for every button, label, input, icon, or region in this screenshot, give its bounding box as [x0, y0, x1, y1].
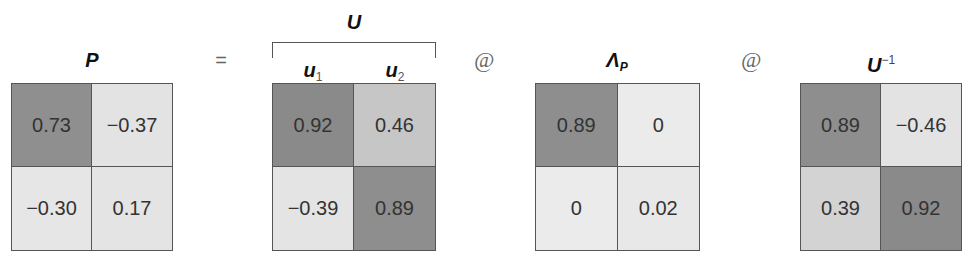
matrix-p-cell: −0.30: [12, 167, 92, 250]
matrix-u-cell: 0.89: [354, 167, 435, 250]
matrix-u-inverse-title: U−1: [856, 50, 906, 75]
matrix-p-cell: 0.73: [12, 84, 92, 167]
matrix-u-inverse-cell: 0.39: [801, 167, 881, 250]
matrix-p: 0.73 −0.37 −0.30 0.17: [11, 83, 173, 251]
matrix-u-bracket: [272, 42, 436, 58]
matrix-u: 0.92 0.46 −0.39 0.89: [272, 83, 436, 251]
matrix-p-title-text: P: [85, 49, 98, 71]
matrix-u-cell: 0.92: [273, 84, 354, 167]
column-label-base: u: [304, 59, 316, 81]
matrix-lambda-cell: 0.89: [536, 84, 618, 167]
column-label-index: 2: [398, 70, 405, 84]
matrix-u-title: U: [334, 12, 374, 32]
matrix-p-cell: 0.17: [92, 167, 172, 250]
matrix-u-inverse-cell: 0.92: [881, 167, 961, 250]
matmul-operator-1: @: [472, 50, 496, 70]
matrix-u-inverse-title-text: U: [867, 54, 881, 76]
matrix-p-title: P: [72, 50, 112, 70]
matrix-lambda-cell: 0: [536, 167, 618, 250]
matrix-p-cell: −0.37: [92, 84, 172, 167]
matrix-u-cell: 0.46: [354, 84, 435, 167]
matrix-u-inverse-cell: 0.89: [801, 84, 881, 167]
matrix-u-inverse: 0.89 −0.46 0.39 0.92: [800, 83, 962, 251]
matrix-lambda-title-text: Λ: [606, 49, 619, 71]
matrix-u-cell: −0.39: [273, 167, 354, 250]
matrix-lambda-title: ΛP: [592, 50, 642, 77]
matrix-u-inverse-superscript: −1: [881, 53, 895, 67]
column-label-index: 1: [316, 70, 323, 84]
equals-operator: =: [209, 50, 233, 70]
column-label-base: u: [386, 59, 398, 81]
matrix-lambda-cell: 0.02: [618, 167, 700, 250]
matrix-lambda-subscript: P: [620, 60, 628, 74]
matmul-operator-2: @: [739, 50, 763, 70]
matrix-u-inverse-cell: −0.46: [881, 84, 961, 167]
matrix-lambda-cell: 0: [618, 84, 700, 167]
matrix-u-title-text: U: [347, 11, 361, 33]
matrix-lambda: 0.89 0 0 0.02: [535, 83, 700, 251]
